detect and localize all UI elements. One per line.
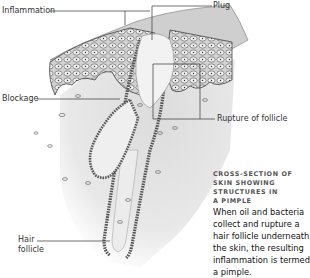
- figure-caption: Cross-section of skin showing structures…: [213, 170, 295, 278]
- label-rupture-of-follicle: Rupture of follicle: [217, 114, 287, 124]
- caption-body-line-4: the skin, the resulting: [213, 243, 295, 254]
- leader-inflammation: [50, 11, 125, 25]
- caption-title-line-3: structures in: [213, 188, 295, 197]
- caption-body-line-5: inflammation is termed: [213, 255, 295, 266]
- caption-title-line-4: a pimple: [213, 197, 295, 206]
- label-blockage: Blockage: [2, 94, 38, 104]
- label-plug: Plug: [213, 1, 230, 11]
- caption-title-line-1: Cross-section of: [213, 170, 295, 179]
- caption-body-line-1: When oil and bacteria: [213, 207, 295, 218]
- caption-title-line-2: skin showing: [213, 179, 295, 188]
- label-follicle: follicle: [18, 245, 44, 255]
- caption-body-line-3: hair follicle underneath: [213, 231, 295, 242]
- label-hair: Hair: [18, 235, 34, 245]
- caption-body-line-2: collect and rupture a: [213, 219, 295, 230]
- label-inflammation: Inflammation: [2, 6, 55, 16]
- caption-body-line-6: a pimple.: [213, 267, 295, 278]
